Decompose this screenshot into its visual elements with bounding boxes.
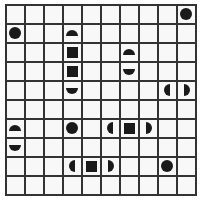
grid-cell[interactable] <box>26 177 45 196</box>
grid-cell[interactable] <box>178 120 197 139</box>
grid-cell[interactable] <box>83 158 102 177</box>
grid-cell[interactable] <box>121 101 140 120</box>
grid-cell[interactable] <box>121 177 140 196</box>
grid-cell[interactable] <box>26 82 45 101</box>
grid-cell[interactable] <box>64 6 83 25</box>
grid-cell[interactable] <box>64 177 83 196</box>
grid-cell[interactable] <box>102 139 121 158</box>
grid-cell[interactable] <box>159 177 178 196</box>
grid-cell[interactable] <box>121 139 140 158</box>
grid-cell[interactable] <box>64 63 83 82</box>
grid-cell[interactable] <box>178 25 197 44</box>
grid-cell[interactable] <box>83 82 102 101</box>
grid-cell[interactable] <box>140 44 159 63</box>
grid-cell[interactable] <box>83 44 102 63</box>
grid-cell[interactable] <box>83 101 102 120</box>
grid-cell[interactable] <box>83 120 102 139</box>
grid-cell[interactable] <box>159 44 178 63</box>
grid-cell[interactable] <box>26 139 45 158</box>
grid-cell[interactable] <box>140 158 159 177</box>
grid-cell[interactable] <box>140 82 159 101</box>
grid-cell[interactable] <box>140 6 159 25</box>
grid-cell[interactable] <box>45 25 64 44</box>
grid-cell[interactable] <box>45 158 64 177</box>
grid-cell[interactable] <box>7 139 26 158</box>
grid-cell[interactable] <box>45 6 64 25</box>
grid-cell[interactable] <box>83 177 102 196</box>
grid-cell[interactable] <box>7 82 26 101</box>
grid-cell[interactable] <box>178 177 197 196</box>
grid-cell[interactable] <box>159 6 178 25</box>
grid-cell[interactable] <box>83 6 102 25</box>
grid-cell[interactable] <box>64 139 83 158</box>
grid-cell[interactable] <box>26 63 45 82</box>
grid-cell[interactable] <box>121 158 140 177</box>
grid-cell[interactable] <box>178 158 197 177</box>
grid-cell[interactable] <box>140 120 159 139</box>
grid-cell[interactable] <box>7 6 26 25</box>
grid-cell[interactable] <box>102 44 121 63</box>
grid-cell[interactable] <box>102 25 121 44</box>
grid-cell[interactable] <box>159 82 178 101</box>
grid-cell[interactable] <box>64 25 83 44</box>
grid-cell[interactable] <box>140 101 159 120</box>
grid-cell[interactable] <box>102 120 121 139</box>
grid-cell[interactable] <box>45 177 64 196</box>
grid-cell[interactable] <box>45 63 64 82</box>
grid-cell[interactable] <box>26 120 45 139</box>
grid-cell[interactable] <box>121 120 140 139</box>
grid-cell[interactable] <box>45 101 64 120</box>
grid-cell[interactable] <box>159 158 178 177</box>
grid-cell[interactable] <box>178 6 197 25</box>
grid-cell[interactable] <box>64 44 83 63</box>
grid-cell[interactable] <box>26 6 45 25</box>
grid-cell[interactable] <box>178 101 197 120</box>
grid-cell[interactable] <box>178 44 197 63</box>
grid-cell[interactable] <box>159 101 178 120</box>
grid-cell[interactable] <box>7 25 26 44</box>
grid-cell[interactable] <box>140 139 159 158</box>
grid-cell[interactable] <box>7 63 26 82</box>
grid-cell[interactable] <box>45 44 64 63</box>
grid-cell[interactable] <box>178 82 197 101</box>
grid-cell[interactable] <box>7 44 26 63</box>
grid-cell[interactable] <box>159 120 178 139</box>
grid-cell[interactable] <box>102 6 121 25</box>
grid-cell[interactable] <box>7 158 26 177</box>
grid-cell[interactable] <box>45 120 64 139</box>
grid-cell[interactable] <box>140 177 159 196</box>
grid-cell[interactable] <box>121 6 140 25</box>
grid-cell[interactable] <box>140 63 159 82</box>
grid-cell[interactable] <box>64 101 83 120</box>
grid-cell[interactable] <box>45 139 64 158</box>
grid-cell[interactable] <box>121 63 140 82</box>
grid-cell[interactable] <box>26 25 45 44</box>
grid-cell[interactable] <box>102 101 121 120</box>
grid-cell[interactable] <box>83 139 102 158</box>
grid-cell[interactable] <box>102 82 121 101</box>
grid-cell[interactable] <box>26 44 45 63</box>
grid-cell[interactable] <box>102 177 121 196</box>
grid-cell[interactable] <box>140 25 159 44</box>
grid-cell[interactable] <box>178 63 197 82</box>
grid-cell[interactable] <box>121 44 140 63</box>
grid-cell[interactable] <box>64 120 83 139</box>
grid-cell[interactable] <box>159 25 178 44</box>
grid-cell[interactable] <box>7 101 26 120</box>
grid-cell[interactable] <box>26 158 45 177</box>
grid-cell[interactable] <box>64 82 83 101</box>
grid-cell[interactable] <box>159 139 178 158</box>
grid-cell[interactable] <box>121 82 140 101</box>
grid-cell[interactable] <box>178 139 197 158</box>
grid-cell[interactable] <box>7 177 26 196</box>
grid-cell[interactable] <box>45 82 64 101</box>
grid-cell[interactable] <box>159 63 178 82</box>
grid-cell[interactable] <box>121 25 140 44</box>
grid-cell[interactable] <box>26 101 45 120</box>
grid-cell[interactable] <box>83 25 102 44</box>
grid-cell[interactable] <box>64 158 83 177</box>
grid-cell[interactable] <box>102 63 121 82</box>
grid-cell[interactable] <box>83 63 102 82</box>
grid-cell[interactable] <box>102 158 121 177</box>
grid-cell[interactable] <box>7 120 26 139</box>
